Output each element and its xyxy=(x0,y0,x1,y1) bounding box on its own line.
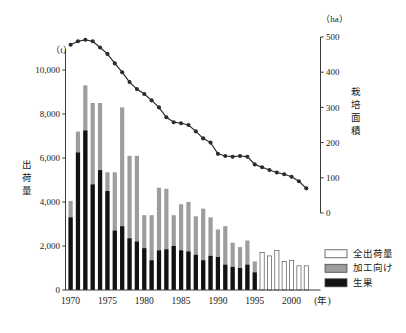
line-data-point xyxy=(172,120,176,124)
bar-segment-fresh xyxy=(113,231,117,290)
x-axis-tick-label: 1970 xyxy=(61,296,80,306)
legend-swatch-white xyxy=(325,250,347,258)
line-data-point xyxy=(231,155,235,159)
line-data-point xyxy=(83,38,87,42)
legend-item-label: 全出荷量 xyxy=(353,248,393,259)
left-axis-tick-label: 10,000 xyxy=(35,65,60,75)
bar-segment-fresh xyxy=(120,226,124,290)
line-data-point xyxy=(142,92,146,96)
line-data-point xyxy=(150,98,154,102)
line-data-point xyxy=(186,123,190,127)
bar-segment-fresh xyxy=(127,238,131,290)
line-data-point xyxy=(194,129,198,133)
right-axis-title-char: 培 xyxy=(351,99,361,110)
shipment-and-cultivated-area-chart: 02,0004,0006,0008,00010,000（t） 010020030… xyxy=(0,0,406,333)
left-axis-tick-label: 8,000 xyxy=(40,109,61,119)
left-axis-tick-label: 6,000 xyxy=(40,153,61,163)
right-axis-tick-label: 200 xyxy=(326,138,340,148)
bar-segment-fresh xyxy=(223,265,227,290)
legend-item-label: 加工向け xyxy=(353,262,393,273)
bar-segment-fresh xyxy=(201,260,205,290)
right-axis-tick-label: 300 xyxy=(326,103,340,113)
right-axis-tick-label: 100 xyxy=(326,173,340,183)
right-axis-title-char: 面 xyxy=(351,113,361,123)
right-axis-title-char: 積 xyxy=(351,125,361,136)
line-data-point xyxy=(201,136,205,140)
bar-segment-fresh xyxy=(179,250,183,290)
line-data-point xyxy=(209,141,213,145)
line-data-point xyxy=(267,168,271,172)
bar-segment-fresh xyxy=(83,131,87,291)
line-data-point xyxy=(223,154,227,158)
bar-total-only xyxy=(267,256,271,290)
x-axis-tick-label: 1990 xyxy=(208,296,227,306)
line-data-point xyxy=(98,46,102,50)
line-data-point xyxy=(253,162,257,166)
legend-swatch-gray xyxy=(325,264,347,272)
x-axis-tick-label: 1975 xyxy=(98,296,117,306)
bar-segment-fresh xyxy=(231,267,235,290)
x-axis-tick-label: 1995 xyxy=(245,296,264,306)
bar-segment-fresh xyxy=(216,257,220,290)
bar-segment-fresh xyxy=(157,250,161,290)
right-axis-tick-label: 400 xyxy=(326,67,340,77)
line-data-point xyxy=(216,152,220,156)
bar-total-only xyxy=(289,260,293,290)
bar-segment-fresh xyxy=(135,242,139,290)
legend-swatch-black xyxy=(325,279,347,287)
bar-segment-fresh xyxy=(91,184,95,290)
line-data-point xyxy=(282,172,286,176)
x-axis-tick-label: 1985 xyxy=(172,296,191,306)
line-data-point xyxy=(304,186,308,190)
bar-segment-fresh xyxy=(164,249,168,290)
bar-segment-fresh xyxy=(98,170,102,290)
bar-segment-fresh xyxy=(76,153,80,291)
line-data-point xyxy=(157,105,161,109)
line-data-point xyxy=(297,179,301,183)
bar-total-only xyxy=(260,253,264,290)
bar-segment-fresh xyxy=(238,268,242,290)
line-data-point xyxy=(164,115,168,119)
line-data-point xyxy=(69,43,73,47)
chart-container: 02,0004,0006,0008,00010,000（t） 010020030… xyxy=(0,0,406,333)
bar-total-only xyxy=(275,250,279,290)
x-axis-tick-label: 1980 xyxy=(135,296,154,306)
bar-total-only xyxy=(304,266,308,290)
line-data-point xyxy=(238,154,242,158)
line-data-point xyxy=(105,52,109,56)
bar-segment-fresh xyxy=(208,256,212,290)
bar-segment-fresh xyxy=(245,265,249,290)
line-data-point xyxy=(290,175,294,179)
line-data-point xyxy=(260,165,264,169)
left-axis-unit-label: （t） xyxy=(51,45,72,55)
bar-segment-fresh xyxy=(194,255,198,290)
legend-item-label: 生果 xyxy=(353,277,373,288)
bar-segment-fresh xyxy=(69,217,73,290)
line-data-point xyxy=(245,155,249,159)
right-axis-tick-label: 0 xyxy=(326,208,331,218)
left-axis-title-char: 出 xyxy=(22,159,32,170)
bar-segment-fresh xyxy=(172,246,176,290)
left-axis-title-char: 量 xyxy=(22,186,32,196)
x-axis-tick-label: 2000 xyxy=(282,296,301,306)
bar-segment-fresh xyxy=(150,260,154,290)
bar-segment-fresh xyxy=(142,248,146,290)
line-data-point xyxy=(127,80,131,84)
line-data-point xyxy=(91,39,95,43)
bar-segment-fresh xyxy=(105,191,109,290)
line-data-point xyxy=(135,87,139,91)
bar-total-only xyxy=(282,261,286,290)
x-axis-unit-label: (年) xyxy=(314,295,330,307)
line-data-point xyxy=(179,121,183,125)
right-axis-tick-label: 500 xyxy=(326,32,340,42)
line-data-point xyxy=(275,170,279,174)
left-axis-tick-label: 0 xyxy=(56,285,61,295)
line-data-point xyxy=(76,39,80,43)
left-axis-title-char: 荷 xyxy=(22,173,32,183)
line-data-point xyxy=(113,61,117,65)
line-data-point xyxy=(120,70,124,74)
left-axis-tick-label: 2,000 xyxy=(40,241,61,251)
right-axis-unit-label: （ha） xyxy=(321,14,348,24)
bar-total-only xyxy=(297,266,301,290)
bar-segment-fresh xyxy=(186,252,190,291)
